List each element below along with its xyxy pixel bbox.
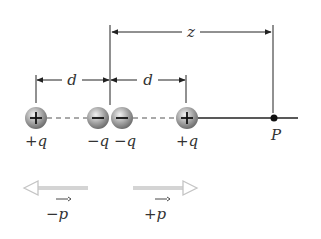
z-dimension: z: [110, 23, 273, 113]
dipole-arrow-left: −p: [24, 181, 88, 223]
charge-minus-1: −q: [87, 107, 109, 150]
d-right-label: d: [143, 71, 153, 89]
z-label: z: [186, 23, 195, 41]
dipole-label: −p: [46, 205, 69, 223]
d-dimension-right: d: [111, 71, 186, 103]
charge-label: +q: [25, 132, 47, 150]
dipole-arrow-right: +p: [133, 181, 197, 223]
charge-label: −q: [87, 132, 109, 150]
charge-plus-2: +q: [176, 107, 198, 150]
d-left-label: d: [67, 71, 77, 89]
charge-label: +q: [176, 132, 198, 150]
dipole-label: +p: [144, 205, 167, 223]
d-dimension-left: d: [36, 71, 109, 103]
charge-label: −q: [114, 132, 136, 150]
point-p: P: [270, 115, 282, 145]
charge-minus-2: −q: [111, 107, 136, 150]
dipole-diagram: z d d +q −q −q +q: [0, 0, 321, 239]
point-label: P: [270, 126, 282, 144]
charge-plus-1: +q: [25, 107, 47, 150]
